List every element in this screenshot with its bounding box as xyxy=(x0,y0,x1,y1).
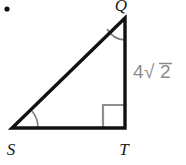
geometry-figure: Q S T 4 √ 2 xyxy=(0,0,186,165)
side-length-coefficient: 4 xyxy=(133,61,144,82)
vertex-label-t: T xyxy=(119,140,130,159)
side-length-label-qt: 4 √ 2 xyxy=(133,61,172,82)
vertex-label-q: Q xyxy=(115,0,127,15)
triangle-diagram-svg: Q S T 4 √ 2 xyxy=(0,0,186,165)
radical-sign-icon: √ xyxy=(144,61,155,82)
vertex-label-s: S xyxy=(7,140,16,159)
list-bullet-icon xyxy=(4,6,9,11)
diagram-background xyxy=(0,0,186,165)
